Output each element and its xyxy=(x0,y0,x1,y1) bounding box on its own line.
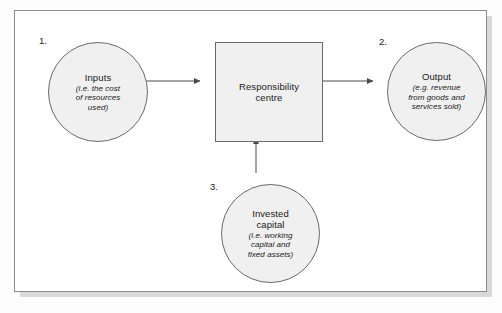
callout-number-3: 3. xyxy=(210,181,218,192)
node-output-subtitle: (e.g. revenue from goods and services so… xyxy=(408,83,464,111)
node-invested-capital: Invested capital (i.e. working capital a… xyxy=(221,184,320,283)
diagram-canvas: 1. 2. 3. Inputs (i.e. the cost of resour… xyxy=(0,0,502,313)
node-inputs: Inputs (i.e. the cost of resources used) xyxy=(48,42,148,142)
node-inputs-title: Inputs xyxy=(85,72,111,83)
figure-frame: 1. 2. 3. Inputs (i.e. the cost of resour… xyxy=(14,10,487,292)
callout-number-1: 1. xyxy=(39,35,47,46)
node-inputs-subtitle: (i.e. the cost of resources used) xyxy=(76,84,121,112)
node-responsibility-centre-title: Responsibility centre xyxy=(239,81,299,103)
callout-number-2: 2. xyxy=(379,36,387,47)
node-invested-capital-title: Invested capital xyxy=(252,208,289,230)
diagram-area: 1. 2. 3. Inputs (i.e. the cost of resour… xyxy=(15,11,486,291)
node-invested-capital-subtitle: (i.e. working capital and fixed assets) xyxy=(248,231,294,259)
node-output: Output (e.g. revenue from goods and serv… xyxy=(387,42,486,141)
node-responsibility-centre: Responsibility centre xyxy=(215,42,323,142)
node-output-title: Output xyxy=(422,71,451,82)
